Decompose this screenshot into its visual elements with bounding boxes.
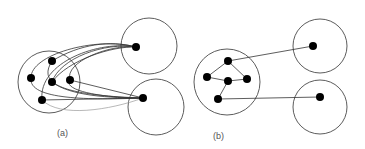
node-a1 (48, 57, 56, 65)
panel-label-b: (b) (213, 131, 224, 141)
node-b-bottom-remote (316, 93, 324, 101)
node-b3 (224, 77, 232, 85)
node-b1 (224, 57, 232, 65)
node-a-bottom-remote (139, 94, 147, 102)
panel-b: (b) (194, 19, 347, 141)
cluster-circle-a-bottom-right (128, 79, 184, 135)
edges-a-to-bottom (31, 61, 143, 111)
node-b4 (243, 75, 251, 83)
node-b2 (203, 73, 211, 81)
bundled-edges-diagram: (a) (b) (0, 0, 365, 149)
node-a4 (66, 76, 74, 84)
node-a5 (38, 96, 46, 104)
cluster-circle-b-bottom-right (293, 80, 347, 134)
edges-b (207, 46, 320, 99)
cluster-circle-b-top-right (293, 19, 347, 73)
panel-label-a: (a) (57, 128, 68, 138)
node-a3 (48, 78, 56, 86)
node-b-top-remote (309, 42, 317, 50)
node-a2 (27, 74, 35, 82)
node-a-top-remote (132, 43, 140, 51)
node-b5 (214, 95, 222, 103)
panel-a: (a) (18, 18, 184, 138)
